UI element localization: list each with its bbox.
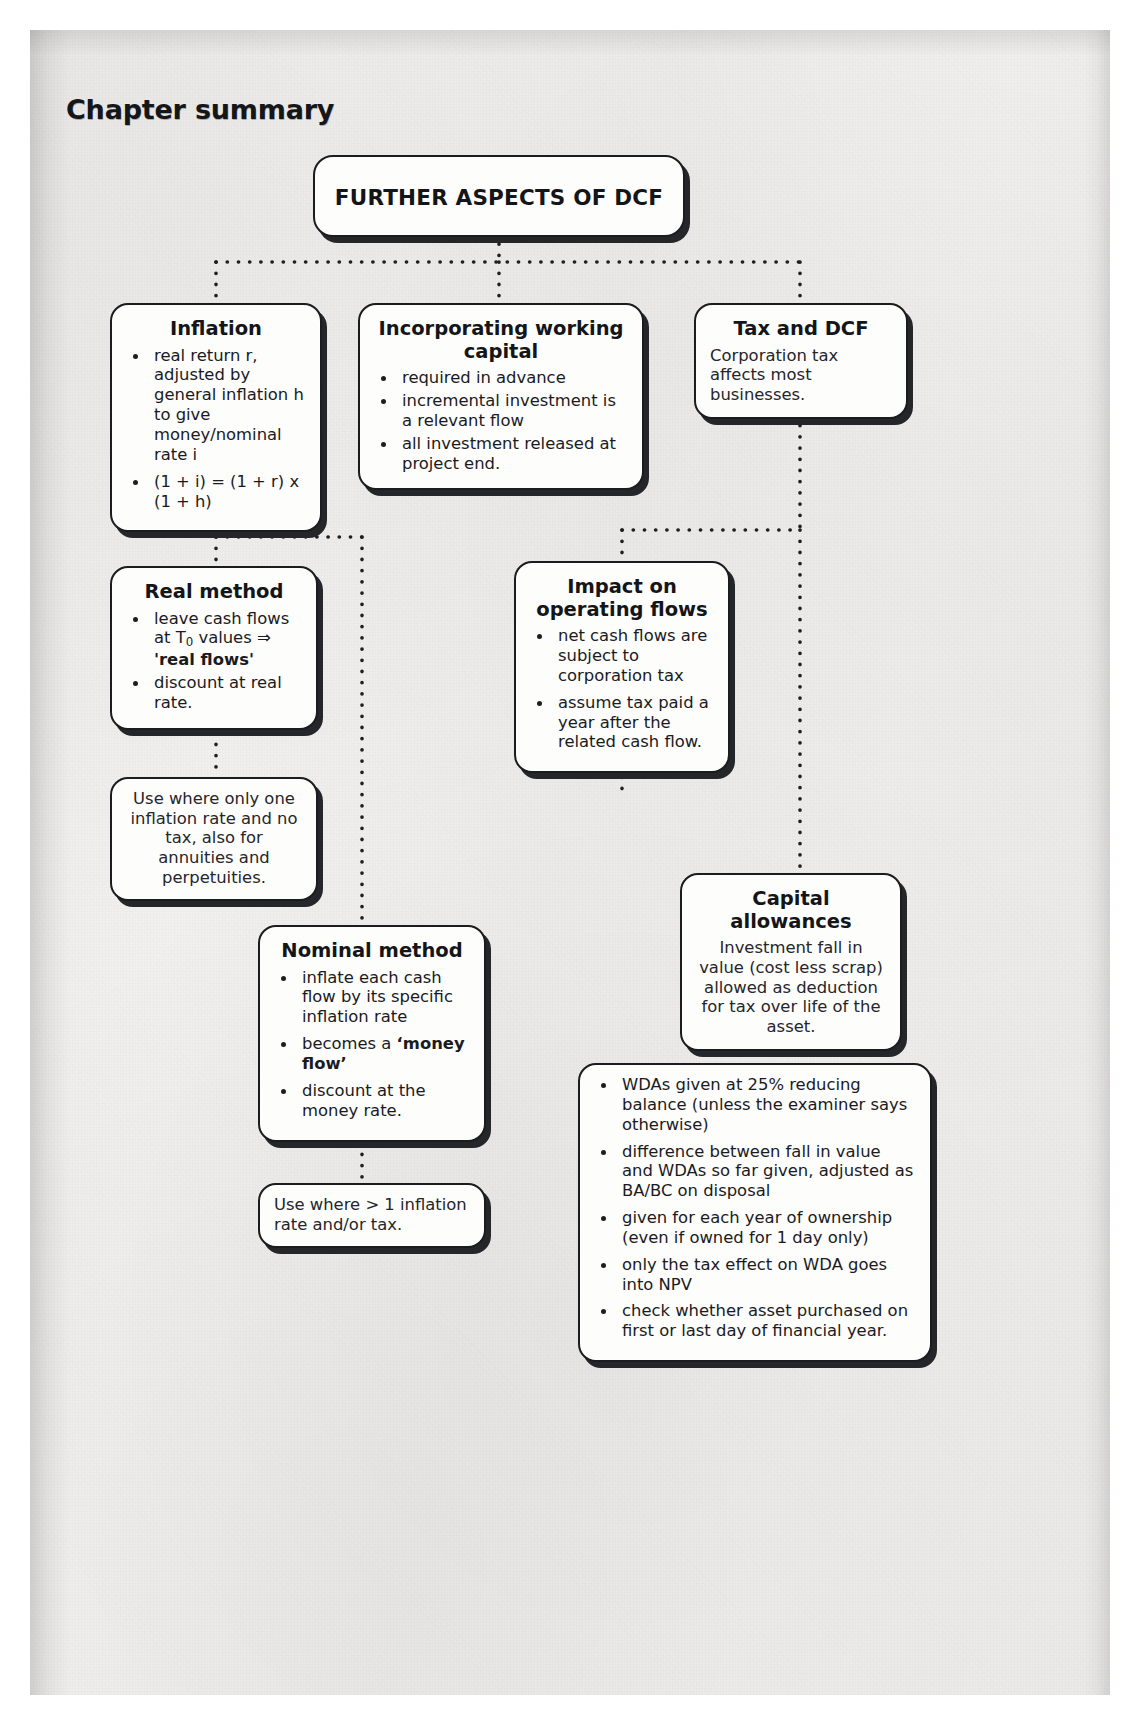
list-item: assume tax paid a year after the related…: [530, 693, 714, 753]
node-impact-on-operating-flows[interactable]: Impact on operating flows net cash flows…: [514, 561, 730, 773]
page-root: Chapter summary: [0, 0, 1140, 1728]
node-real-method[interactable]: Real method leave cash flows at T0 value…: [110, 566, 318, 730]
list-item: leave cash flows at T0 values ⇒ 'real fl…: [126, 609, 302, 670]
node-title: Nominal method: [274, 940, 470, 963]
list-item: required in advance: [374, 368, 628, 388]
list-item: WDAs given at 25% reducing balance (unle…: [594, 1075, 916, 1135]
node-title: Incorporating working capital: [374, 318, 628, 363]
node-title: Tax and DCF: [710, 318, 892, 341]
list-item: real return r, adjusted by general infla…: [126, 346, 306, 465]
node-title: FURTHER ASPECTS OF DCF: [315, 157, 683, 239]
scan-gutter-shadow-left: [30, 30, 70, 1695]
node-bullet-list: net cash flows are subject to corporatio…: [530, 626, 714, 752]
node-title: Capital allowances: [696, 888, 886, 933]
node-title: Real method: [126, 581, 302, 604]
node-title: Impact on operating flows: [530, 576, 714, 621]
node-text: Corporation tax affects most businesses.: [710, 346, 892, 405]
node-use-where-more-than-one-inflation-rate[interactable]: Use where > 1 inflation rate and/or tax.: [258, 1183, 486, 1248]
list-item: only the tax effect on WDA goes into NPV: [594, 1255, 916, 1295]
node-further-aspects-of-dcf[interactable]: FURTHER ASPECTS OF DCF: [313, 155, 685, 237]
node-incorporating-working-capital[interactable]: Incorporating working capital required i…: [358, 303, 644, 490]
list-item: discount at real rate.: [126, 673, 302, 713]
node-bullet-list: required in advance incremental investme…: [374, 368, 628, 473]
list-item: becomes a ‘money flow’: [274, 1034, 470, 1074]
node-text: Use where > 1 inflation rate and/or tax.: [274, 1195, 470, 1234]
node-wda-details[interactable]: WDAs given at 25% reducing balance (unle…: [578, 1063, 932, 1362]
node-inflation[interactable]: Inflation real return r, adjusted by gen…: [110, 303, 322, 532]
list-item: net cash flows are subject to corporatio…: [530, 626, 714, 686]
list-item: discount at the money rate.: [274, 1081, 470, 1121]
node-use-where-one-inflation-rate[interactable]: Use where only one inflation rate and no…: [110, 777, 318, 901]
list-item: all investment released at project end.: [374, 434, 628, 474]
node-capital-allowances[interactable]: Capital allowances Investment fall in va…: [680, 873, 902, 1051]
list-item: inflate each cash flow by its specific i…: [274, 968, 470, 1028]
list-item: difference between fall in value and WDA…: [594, 1142, 916, 1202]
node-bullet-list: inflate each cash flow by its specific i…: [274, 968, 470, 1121]
node-bullet-list: leave cash flows at T0 values ⇒ 'real fl…: [126, 609, 302, 713]
list-item-text-a: becomes a: [302, 1034, 397, 1053]
list-item: check whether asset purchased on first o…: [594, 1301, 916, 1341]
node-tax-and-dcf[interactable]: Tax and DCF Corporation tax affects most…: [694, 303, 908, 419]
node-text: Investment fall in value (cost less scra…: [696, 938, 886, 1036]
node-text: Use where only one inflation rate and no…: [126, 789, 302, 887]
list-item: given for each year of ownership (even i…: [594, 1208, 916, 1248]
emphasis-real-flows: 'real flows': [154, 650, 254, 669]
node-bullet-list: WDAs given at 25% reducing balance (unle…: [594, 1075, 916, 1341]
scan-gutter-shadow-right: [1084, 30, 1110, 1695]
page-title: Chapter summary: [66, 94, 334, 125]
list-item: incremental investment is a relevant flo…: [374, 391, 628, 431]
node-title: Inflation: [126, 318, 306, 341]
list-item-text-b: values ⇒: [193, 628, 270, 647]
node-bullet-list: real return r, adjusted by general infla…: [126, 346, 306, 512]
scan-edge-shadow-top: [30, 30, 1110, 56]
node-nominal-method[interactable]: Nominal method inflate each cash flow by…: [258, 925, 486, 1142]
list-item: (1 + i) = (1 + r) x (1 + h): [126, 472, 306, 512]
